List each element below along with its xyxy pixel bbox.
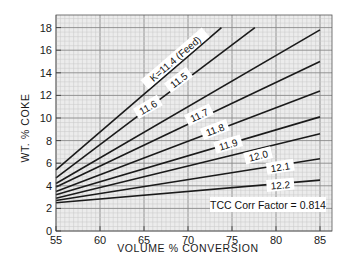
series-label-text: 12.2 [270,179,291,192]
y-tick-label: 8 [46,135,52,147]
x-axis-label: VOLUME % CONVERSION [117,242,259,254]
y-tick-label: 4 [46,180,52,192]
series-label: 12.2 [266,178,295,192]
y-tick-label: 18 [40,22,52,34]
y-tick-label: 14 [40,67,52,79]
annotation-box: TCC Corr Factor = 0.814 [210,197,326,212]
annotation-text: TCC Corr Factor = 0.814 [210,199,326,211]
y-tick-label: 6 [46,157,52,169]
y-tick-label: 12 [40,89,52,101]
y-tick-label: 16 [40,44,52,56]
x-tick-label: 80 [270,234,282,246]
y-tick-label: 2 [46,202,52,214]
y-tick-label: 10 [40,112,52,124]
chart: K=11.4 (Feed)11.511.611.711.811.912.012.… [0,0,349,268]
y-tick-label: 0 [46,225,52,237]
x-tick-label: 60 [94,234,106,246]
x-tick-label: 85 [314,234,326,246]
y-axis-label: WT. % COKE [19,93,31,162]
